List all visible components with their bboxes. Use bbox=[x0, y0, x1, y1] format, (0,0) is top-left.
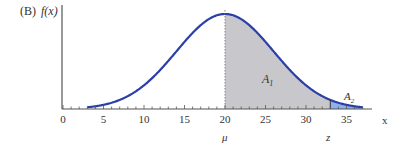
x-tick-label: 20 bbox=[220, 113, 232, 125]
x-tick-label: 15 bbox=[179, 113, 191, 125]
x-tick-label: 10 bbox=[139, 113, 151, 125]
shaded-area-a1 bbox=[225, 14, 330, 109]
x-tick-label: 35 bbox=[341, 113, 353, 125]
z-label: z bbox=[325, 131, 331, 143]
x-tick-label: 5 bbox=[101, 113, 107, 125]
x-tick-label: 0 bbox=[60, 113, 66, 125]
area2-label: A2 bbox=[343, 90, 355, 105]
mu-label: μ bbox=[221, 131, 228, 143]
panel-label: (B) bbox=[20, 4, 36, 18]
x-tick-label: 25 bbox=[260, 113, 272, 125]
x-axis-label: x bbox=[382, 114, 388, 126]
y-axis-label: f(x) bbox=[41, 4, 58, 18]
x-tick-label: 30 bbox=[301, 113, 313, 125]
normal-distribution-figure: 05101520253035 (B) f(x) x μ z A1 A2 bbox=[0, 0, 408, 145]
